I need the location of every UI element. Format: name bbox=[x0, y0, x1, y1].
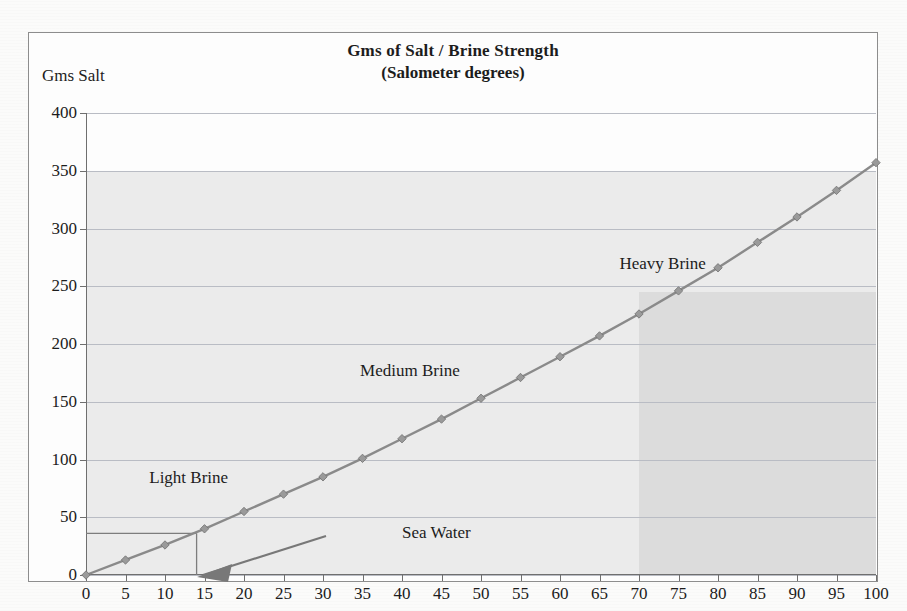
x-tick-mark bbox=[797, 575, 798, 581]
x-tick-mark bbox=[126, 575, 127, 581]
x-tick-mark bbox=[165, 575, 166, 581]
x-tick-label: 25 bbox=[275, 584, 292, 604]
y-tick-label: 350 bbox=[52, 161, 78, 181]
chart-frame: Gms of Salt / Brine Strength (Salometer … bbox=[28, 32, 878, 582]
x-tick-mark bbox=[600, 575, 601, 581]
x-tick-label: 5 bbox=[121, 584, 130, 604]
chart-subtitle: (Salometer degrees) bbox=[29, 63, 877, 83]
y-tick-label: 250 bbox=[52, 276, 78, 296]
x-tick-label: 10 bbox=[157, 584, 174, 604]
x-tick-mark bbox=[481, 575, 482, 581]
x-tick-label: 80 bbox=[710, 584, 727, 604]
x-tick-label: 45 bbox=[433, 584, 450, 604]
x-tick-mark bbox=[718, 575, 719, 581]
y-axis-title: Gms Salt bbox=[42, 66, 105, 86]
annotation-light-brine: Light Brine bbox=[149, 468, 228, 488]
x-tick-mark bbox=[244, 575, 245, 581]
x-tick-label: 65 bbox=[591, 584, 608, 604]
x-tick-label: 95 bbox=[828, 584, 845, 604]
x-tick-label: 15 bbox=[196, 584, 213, 604]
x-tick-label: 60 bbox=[552, 584, 569, 604]
x-tick-mark bbox=[363, 575, 364, 581]
x-tick-label: 50 bbox=[473, 584, 490, 604]
chart-title: Gms of Salt / Brine Strength bbox=[29, 41, 877, 61]
x-tick-label: 100 bbox=[863, 584, 889, 604]
x-tick-label: 40 bbox=[394, 584, 411, 604]
x-tick-mark bbox=[560, 575, 561, 581]
sea-water-arrow-layer bbox=[86, 113, 876, 575]
plot-area: 050100150200250300350400 051015202530354… bbox=[86, 113, 876, 575]
x-tick-label: 85 bbox=[749, 584, 766, 604]
y-tick-label: 0 bbox=[69, 565, 78, 585]
x-tick-mark bbox=[639, 575, 640, 581]
x-tick-label: 35 bbox=[354, 584, 371, 604]
x-tick-mark bbox=[442, 575, 443, 581]
x-tick-label: 30 bbox=[315, 584, 332, 604]
x-tick-label: 55 bbox=[512, 584, 529, 604]
x-tick-mark bbox=[679, 575, 680, 581]
sea-water-arrow-head bbox=[197, 564, 232, 582]
x-tick-mark bbox=[837, 575, 838, 581]
y-tick-label: 300 bbox=[52, 219, 78, 239]
annotation-heavy-brine: Heavy Brine bbox=[619, 254, 705, 274]
x-tick-mark bbox=[758, 575, 759, 581]
y-tick-label: 100 bbox=[52, 450, 78, 470]
y-tick-label: 200 bbox=[52, 334, 78, 354]
y-tick-label: 150 bbox=[52, 392, 78, 412]
x-tick-label: 20 bbox=[236, 584, 253, 604]
x-tick-mark bbox=[521, 575, 522, 581]
x-tick-mark bbox=[402, 575, 403, 581]
annotation-sea-water: Sea Water bbox=[402, 523, 471, 543]
x-tick-label: 75 bbox=[670, 584, 687, 604]
x-tick-label: 70 bbox=[631, 584, 648, 604]
x-tick-label: 0 bbox=[82, 584, 91, 604]
x-tick-mark bbox=[284, 575, 285, 581]
x-tick-mark bbox=[876, 575, 877, 581]
x-tick-label: 90 bbox=[789, 584, 806, 604]
y-tick-label: 400 bbox=[52, 103, 78, 123]
annotation-medium-brine: Medium Brine bbox=[360, 361, 460, 381]
x-tick-mark bbox=[323, 575, 324, 581]
y-tick-label: 50 bbox=[60, 507, 77, 527]
